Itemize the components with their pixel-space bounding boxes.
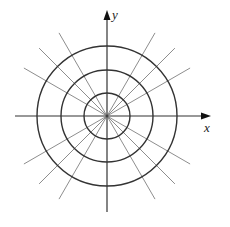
radial-line-135 xyxy=(39,48,107,116)
radial-line-150 xyxy=(24,68,107,116)
radial-line-330 xyxy=(107,116,190,164)
polar-grid-diagram: x y xyxy=(0,0,230,227)
radial-line-120 xyxy=(59,33,107,116)
radial-line-60 xyxy=(107,33,155,116)
radial-line-300 xyxy=(107,116,155,199)
radial-line-45 xyxy=(107,48,175,116)
radial-line-210 xyxy=(24,116,107,164)
y-axis-arrow-icon xyxy=(104,10,111,20)
radial-line-225 xyxy=(39,116,107,184)
radial-line-30 xyxy=(107,68,190,116)
x-axis-arrow-icon xyxy=(201,113,211,120)
radial-line-240 xyxy=(59,116,107,199)
radial-line-315 xyxy=(107,116,175,184)
y-axis-label: y xyxy=(110,7,118,22)
x-axis-label: x xyxy=(203,120,210,135)
